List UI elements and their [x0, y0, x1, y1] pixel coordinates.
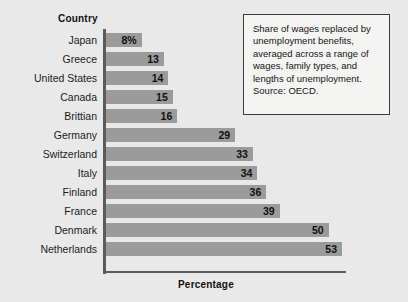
bar-category-label: Canada [60, 91, 97, 103]
bar-row: Switzerland33 [0, 147, 408, 166]
value-axis-title: Percentage [178, 279, 234, 290]
bar [106, 242, 342, 256]
bar-value-label: 29 [205, 129, 230, 141]
bar-row: Netherlands53 [0, 242, 408, 261]
bar-category-label: Greece [63, 53, 97, 65]
bar-row: France39 [0, 204, 408, 223]
bar-value-label: 36 [236, 186, 261, 198]
bar-category-label: Netherlands [40, 243, 97, 255]
bar-row: Finland36 [0, 185, 408, 204]
bar [106, 223, 329, 237]
bar-category-label: Switzerland [43, 148, 97, 160]
bar-value-label: 33 [223, 148, 248, 160]
bar-category-label: Brittian [64, 110, 97, 122]
bar-value-label: 50 [299, 224, 324, 236]
bar-category-label: Finland [63, 186, 97, 198]
bar-category-label: United States [34, 72, 97, 84]
bar-value-label: 34 [227, 167, 252, 179]
bar-fill [106, 242, 342, 256]
bar-category-label: France [64, 205, 97, 217]
category-axis-title: Country [58, 13, 98, 24]
bar-value-label: 14 [138, 72, 163, 84]
bar-category-label: Germany [54, 129, 97, 141]
x-axis-line [103, 271, 346, 273]
bar-value-label: 8% [112, 34, 137, 46]
bar-chart: Country Japan8%Greece13United States14Ca… [0, 0, 408, 302]
bar-value-label: 39 [250, 205, 275, 217]
bar-value-label: 13 [134, 53, 159, 65]
caption-text: Share of wages replaced by unemployment … [253, 23, 384, 97]
bar-category-label: Italy [78, 167, 97, 179]
bar-category-label: Denmark [54, 224, 97, 236]
bar-value-label: 15 [143, 91, 168, 103]
bar-row: Germany29 [0, 128, 408, 147]
bar-category-label: Japan [68, 34, 97, 46]
caption-box: Share of wages replaced by unemployment … [243, 14, 390, 115]
bar-row: Italy34 [0, 166, 408, 185]
bar-fill [106, 223, 329, 237]
bar-value-label: 16 [147, 110, 172, 122]
bar-row: Denmark50 [0, 223, 408, 242]
bar-value-label: 53 [312, 243, 337, 255]
